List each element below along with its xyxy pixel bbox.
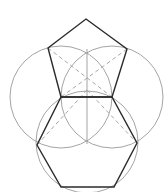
geometric-construction-diagram (0, 0, 168, 192)
dashed-diagonal-line (61, 49, 127, 97)
diagram-canvas (0, 0, 168, 192)
dashed-diagonal-line (48, 48, 112, 97)
construction-circles (10, 46, 163, 192)
